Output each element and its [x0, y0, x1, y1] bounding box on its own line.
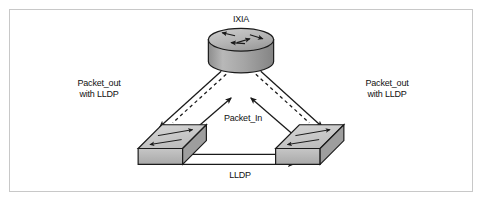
label-packet-out-left-line1: Packet_out: [59, 78, 139, 89]
label-packet-out-left-line2: with LLDP: [59, 89, 139, 100]
label-ixia: IXIA: [10, 14, 472, 25]
network-diagram: [10, 10, 472, 191]
label-packet-out-left: Packet_out with LLDP: [59, 78, 139, 99]
label-packet-out-right-line1: Packet_out: [347, 78, 427, 89]
router-icon: [208, 28, 273, 73]
switch-right-front: [276, 148, 321, 164]
label-packet-in: Packet_In: [198, 113, 288, 124]
router-top: [208, 28, 273, 51]
label-lldp: LLDP: [190, 170, 290, 181]
switch-icon-right: [276, 125, 344, 165]
switch-left-front: [138, 148, 183, 164]
figure-frame: IXIA Packet_out with LLDP Packet_out wit…: [9, 9, 473, 192]
label-packet-out-right-line2: with LLDP: [347, 89, 427, 100]
switch-icon-left: [138, 125, 206, 165]
label-packet-out-right: Packet_out with LLDP: [347, 78, 427, 99]
